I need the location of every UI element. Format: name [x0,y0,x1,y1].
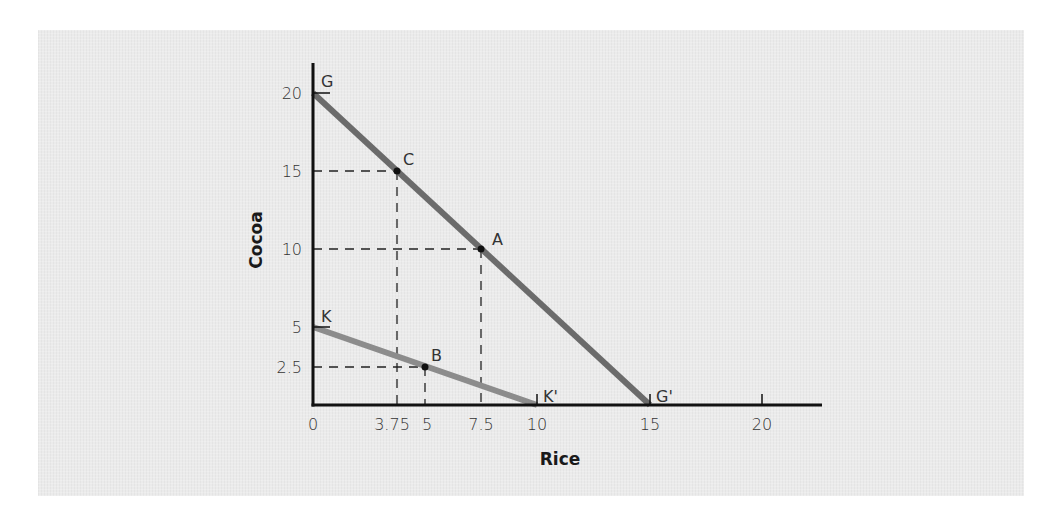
x-tick-0: 0 [308,415,318,434]
label-b: B [431,346,442,365]
dashed-guides [313,171,481,405]
x-tick-20: 20 [752,415,772,434]
y-tick-2-5: 2.5 [277,358,302,377]
label-c: C [403,150,414,169]
x-tick-7-5: 7.5 [468,415,493,434]
point-b [422,364,429,371]
y-tick-15: 15 [282,162,302,181]
x-tick-3-75: 3.75 [374,415,410,434]
x-tick-15: 15 [640,415,660,434]
label-k: K [321,307,332,326]
label-g: G [321,72,333,91]
production-possibilities-chart: 20 15 10 5 2.5 0 3.75 5 7.5 10 15 20 G C… [0,0,1054,512]
label-k-prime: K' [543,387,558,406]
point-c [394,168,401,175]
point-a [478,246,485,253]
y-tick-10: 10 [282,240,302,259]
label-a: A [492,230,503,249]
y-tick-20: 20 [282,84,302,103]
x-tick-5: 5 [422,415,432,434]
x-tick-10: 10 [527,415,547,434]
y-axis-title: Cocoa [246,211,266,268]
y-tick-5: 5 [292,318,302,337]
x-axis-title: Rice [540,449,581,469]
label-g-prime: G' [656,387,673,406]
